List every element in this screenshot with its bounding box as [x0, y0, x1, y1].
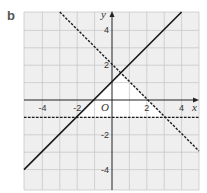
y-tick-label: -4	[101, 165, 109, 175]
y-tick-label: 4	[104, 25, 109, 35]
x-tick-label: -2	[73, 103, 81, 113]
x-tick-label: -4	[38, 103, 46, 113]
x-axis-label: x	[191, 101, 197, 113]
y-axis-label: y	[100, 8, 106, 20]
x-tick-label: 2	[144, 103, 149, 113]
graph: -4 -2 2 4 4 2 -2 -4 O x y	[0, 0, 207, 193]
y-tick-label: -2	[101, 130, 109, 140]
x-tick-label: 4	[179, 103, 184, 113]
y-tick-label: 2	[104, 60, 109, 70]
origin-label: O	[101, 101, 109, 113]
